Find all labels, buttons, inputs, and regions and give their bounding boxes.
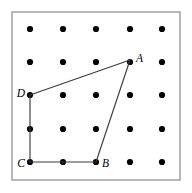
grid-dot-r1-c2 <box>60 26 66 32</box>
figure-canvas: ABCD <box>0 0 192 193</box>
grid-dot-r4-c4 <box>127 126 133 132</box>
grid-dot-r5-c5 <box>159 159 165 165</box>
grid-dot-r2-c5 <box>159 59 165 65</box>
grid-dot-r2-c1 <box>27 59 33 65</box>
vertex-label-d: D <box>16 87 26 99</box>
grid-dot-r3-c3 <box>93 92 99 98</box>
grid-dot-r1-c3 <box>93 26 99 32</box>
vertex-label-a: A <box>135 52 144 64</box>
grid-dot-r4-c2 <box>60 126 66 132</box>
vertex-label-b: B <box>102 157 109 169</box>
geometry-figure: ABCD <box>0 0 192 193</box>
grid-dot-r3-c4 <box>127 92 133 98</box>
grid-dot-r2-c2 <box>60 59 66 65</box>
grid-dot-r1-c5 <box>159 26 165 32</box>
grid-dot-r4-c3 <box>93 126 99 132</box>
vertex-label-c: C <box>17 157 25 169</box>
grid-dot-r4-c5 <box>159 126 165 132</box>
grid-dot-r5-c4 <box>127 159 133 165</box>
grid-dot-r2-c3 <box>93 59 99 65</box>
grid-dot-r1-c4 <box>127 26 133 32</box>
grid-dot-r1-c1 <box>27 26 33 32</box>
grid-dot-r3-c5 <box>159 92 165 98</box>
grid-dot-r3-c2 <box>60 92 66 98</box>
